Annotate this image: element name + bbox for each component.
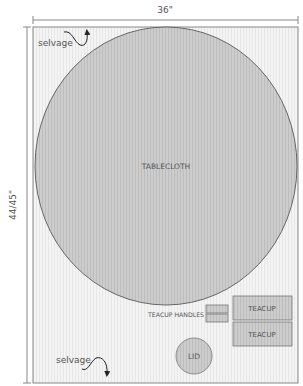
width-dimension: 36" — [33, 5, 298, 24]
width-label: 36" — [157, 5, 173, 15]
cutting-layout-diagram: 36" 44/45" TABLECLOTH TEACUP HANDLES TEA… — [0, 0, 303, 386]
tablecloth-label: TABLECLOTH — [141, 162, 190, 171]
height-label: 44/45" — [8, 190, 18, 220]
height-dimension: 44/45" — [8, 27, 31, 383]
selvage-top-label: selvage — [38, 38, 73, 48]
teacup-handles-label: TEACUP HANDLES — [147, 311, 204, 318]
selvage-bottom-label: selvage — [56, 355, 91, 365]
teacup-label-1: TEACUP — [247, 305, 276, 313]
teacup-label-2: TEACUP — [247, 331, 276, 339]
lid-label: LID — [188, 352, 200, 361]
